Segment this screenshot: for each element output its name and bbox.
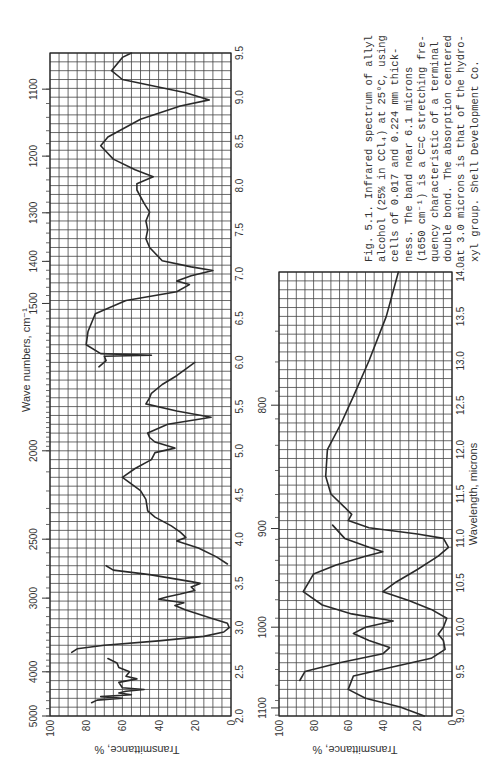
transmittance-tick-label: 100: [274, 720, 285, 737]
wavelength-tick-label: 9.0: [234, 90, 245, 104]
wavenumber-tick-label: 3000: [28, 587, 39, 610]
caption-line: xyl group. Shell Development Co.: [469, 60, 481, 262]
wavelength-tick-label: 5.5: [234, 399, 245, 413]
figure-page: 2.02.53.03.54.04.55.05.56.06.57.07.58.08…: [0, 0, 484, 762]
ir-spectrum-chart-2-to-9.5: 2.02.53.03.54.04.55.05.56.06.57.07.58.08…: [20, 46, 245, 756]
transmittance-tick-label: 40: [378, 720, 389, 732]
chart1-ticks: 2.02.53.03.54.04.55.05.56.06.57.07.58.08…: [28, 46, 245, 737]
transmittance-tick-label: 20: [190, 720, 201, 732]
caption-line: at 3.0 microns is that of the hydro-: [455, 35, 467, 262]
caption-line: alcohol (25% in CCl₄) at 25°C, using: [376, 35, 388, 262]
transmittance-tick-label: 80: [81, 720, 92, 732]
wavelength-tick-label: 3.5: [234, 576, 245, 590]
wavelength-tick-label: 3.0: [234, 620, 245, 634]
chart2-xlabel: Wavelength, microns: [467, 442, 479, 545]
wavelength-tick-label: 10.0: [455, 617, 466, 637]
chart1-ylabel: Transmittance, %: [94, 744, 179, 756]
transmittance-tick-label: 40: [154, 720, 165, 732]
wavenumber-tick-label: 5000: [28, 704, 39, 727]
wavenumber-tick-label: 1400: [28, 250, 39, 273]
wavelength-tick-label: 11.0: [455, 529, 466, 548]
wavenumber-tick-label: 2500: [28, 528, 39, 551]
wavenumber-tick-label: 1300: [28, 201, 39, 224]
chart1-xlabel: Wave numbers, cm⁻¹: [20, 308, 32, 412]
caption-line: ness. The band near 6.1 microns: [403, 67, 415, 262]
wavelength-tick-label: 14.0: [455, 262, 466, 282]
chart2-grid: [279, 272, 452, 716]
wavelength-tick-label: 4.0: [234, 532, 245, 546]
transmittance-tick-label: 0: [226, 720, 237, 726]
caption-line: cells of 0.017 and 0.224 mm thick-: [389, 48, 401, 262]
wavenumber-tick-label: 800: [257, 396, 268, 413]
transmittance-tick-label: 60: [343, 720, 354, 732]
wavelength-tick-label: 12.0: [455, 439, 466, 459]
caption-line: double bond. The absorption centered: [442, 35, 454, 262]
wavelength-tick-label: 12.5: [455, 395, 466, 415]
wavelength-tick-label: 9.5: [234, 46, 245, 60]
wavelength-tick-label: 8.0: [234, 178, 245, 192]
wavelength-tick-label: 5.0: [234, 443, 245, 457]
wavelength-tick-label: 11.5: [455, 484, 466, 503]
caption-line: Fig. 5.1. Infrared spectrum of allyl: [363, 35, 375, 262]
wavenumber-tick-label: 900: [257, 520, 268, 537]
wavenumber-tick-label: 1100: [257, 697, 268, 719]
transmittance-tick-label: 60: [117, 720, 128, 732]
wavelength-tick-label: 10.5: [455, 573, 466, 593]
wavenumber-tick-label: 1000: [257, 616, 268, 639]
transmittance-tick-label: 100: [45, 720, 56, 737]
wavenumber-tick-label: 1200: [28, 145, 39, 168]
wavelength-tick-label: 6.0: [234, 355, 245, 369]
caption-line: (1650 cm⁻¹) is a C=C stretching fre-: [416, 35, 428, 262]
wavelength-tick-label: 13.5: [455, 306, 466, 326]
wavelength-tick-label: 7.5: [234, 222, 245, 236]
chart1-series-2: [122, 362, 227, 564]
transmittance-tick-label: 80: [309, 720, 320, 732]
chart2-ylabel: Transmittance, %: [312, 744, 397, 756]
wavelength-tick-label: 13.0: [455, 351, 466, 371]
ir-spectrum-chart-9-to-14: 9.09.510.010.511.011.512.012.513.013.514…: [257, 262, 479, 756]
transmittance-tick-label: 0: [447, 720, 458, 726]
wavelength-tick-label: 8.5: [234, 134, 245, 148]
wavelength-tick-label: 6.5: [234, 311, 245, 325]
wavelength-tick-label: 2.5: [234, 664, 245, 678]
figure-caption: Fig. 5.1. Infrared spectrum of allylalco…: [363, 35, 481, 262]
wavelength-tick-label: 9.5: [455, 664, 466, 678]
caption-line: quency characteristic of a terminal: [429, 41, 441, 262]
wavelength-tick-label: 4.5: [234, 488, 245, 502]
wavenumber-tick-label: 1100: [28, 78, 39, 100]
transmittance-tick-label: 20: [412, 720, 423, 732]
wavenumber-tick-label: 2000: [28, 439, 39, 462]
wavenumber-tick-label: 4000: [28, 660, 39, 683]
wavelength-tick-label: 7.0: [234, 267, 245, 281]
